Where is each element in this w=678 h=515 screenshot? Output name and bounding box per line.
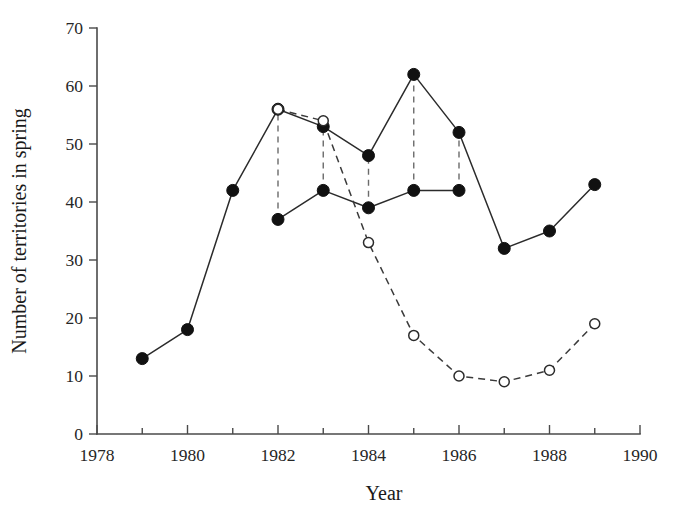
data-point-marker xyxy=(453,126,465,138)
x-axis-tick-label: 1978 xyxy=(80,445,115,465)
data-point-marker xyxy=(317,184,329,196)
x-axis-tick-label: 1982 xyxy=(261,445,296,465)
data-point-marker xyxy=(408,184,420,196)
data-point-marker xyxy=(408,68,420,80)
connectors-layer xyxy=(278,74,459,219)
x-axis-tick-label: 1990 xyxy=(623,445,658,465)
x-axis-tick-label: 1988 xyxy=(532,445,567,465)
y-axis-tick-label: 70 xyxy=(66,18,84,38)
y-axis-tick-label: 40 xyxy=(66,192,84,212)
chart-container: 0102030405060701978198019821984198619881… xyxy=(0,0,678,515)
data-point-marker xyxy=(544,225,556,237)
x-axis-tick-label: 1984 xyxy=(351,445,386,465)
y-axis-tick-label: 10 xyxy=(66,366,84,386)
x-axis-tick-label: 1986 xyxy=(442,445,477,465)
data-point-marker xyxy=(454,371,464,381)
y-axis-tick-label: 60 xyxy=(66,76,84,96)
data-point-marker xyxy=(318,116,328,126)
data-point-marker xyxy=(136,353,148,365)
data-point-marker xyxy=(363,202,375,214)
data-point-marker xyxy=(227,184,239,196)
data-point-marker xyxy=(273,104,283,114)
axis-labels-layer: Year Number of territories in spring xyxy=(8,108,403,504)
y-axis-tick-label: 0 xyxy=(74,424,83,444)
y-axis-title: Number of territories in spring xyxy=(8,108,31,354)
x-axis-title: Year xyxy=(366,482,403,504)
data-point-marker xyxy=(182,324,194,336)
series-line-open-dashed xyxy=(278,109,595,382)
data-point-marker xyxy=(498,242,510,254)
data-point-marker xyxy=(590,319,600,329)
data-point-marker xyxy=(499,377,509,387)
data-point-marker xyxy=(545,365,555,375)
line-chart-svg: 0102030405060701978198019821984198619881… xyxy=(0,0,678,515)
series-line-filled-upper xyxy=(142,74,595,358)
data-point-marker xyxy=(589,179,601,191)
data-point-marker xyxy=(409,330,419,340)
data-point-marker xyxy=(272,213,284,225)
data-point-marker xyxy=(453,184,465,196)
data-point-marker xyxy=(363,150,375,162)
series-lines-layer xyxy=(142,74,595,381)
y-axis-tick-label: 20 xyxy=(66,308,84,328)
axes-layer: 0102030405060701978198019821984198619881… xyxy=(66,18,658,465)
y-axis-tick-label: 30 xyxy=(66,250,84,270)
y-axis-tick-label: 50 xyxy=(66,134,84,154)
x-axis-tick-label: 1980 xyxy=(170,445,205,465)
data-point-marker xyxy=(364,238,374,248)
series-markers-layer xyxy=(136,68,601,386)
